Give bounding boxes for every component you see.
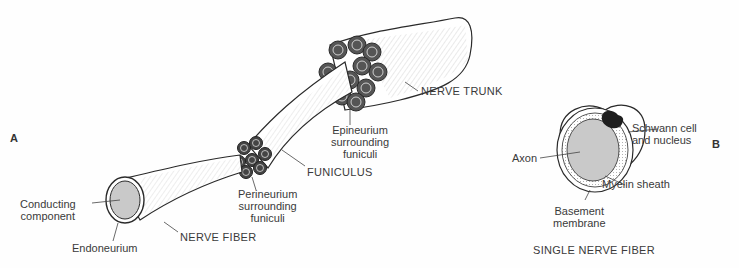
label-nerve-fiber: NERVE FIBER (180, 231, 256, 243)
panel-b-title: SINGLE NERVE FIBER (533, 244, 655, 256)
funiculus-shape (233, 62, 353, 179)
label-endoneurium: Endoneurium (72, 242, 137, 254)
label-funiculus: FUNICULUS (307, 166, 373, 178)
label-basement-membrane: Basement membrane (553, 205, 606, 229)
label-conducting-component: Conducting component (20, 198, 76, 222)
label-myelin-sheath: Myelin sheath (602, 178, 670, 190)
label-schwann-cell: Schwann cell and nucleus (632, 122, 697, 146)
nerve-fiber-shape (106, 155, 242, 223)
label-axon: Axon (512, 152, 537, 164)
label-perineurium: Perineurium surrounding funiculi (238, 188, 297, 224)
panel-letter-b: B (712, 138, 720, 150)
nerve-structure-diagram: A B Conducting component Endoneurium NER… (0, 0, 739, 268)
label-epineurium: Epineurium surrounding funiculi (331, 124, 389, 160)
panel-letter-a: A (10, 132, 18, 144)
label-nerve-trunk: NERVE TRUNK (421, 85, 503, 97)
